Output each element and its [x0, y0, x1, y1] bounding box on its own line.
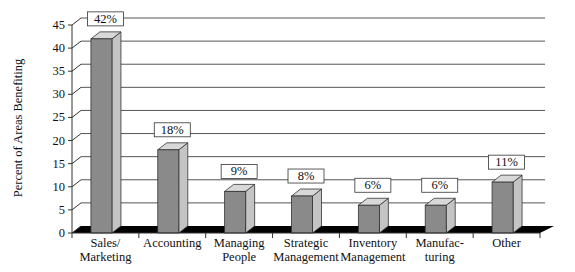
y-tick-label: 10 — [53, 180, 66, 194]
data-label: 9% — [231, 164, 248, 178]
category-label: Accounting — [143, 236, 202, 250]
bar-front — [158, 150, 179, 233]
category-label: Strategic — [284, 236, 329, 250]
bar — [358, 198, 388, 233]
y-tick-label: 5 — [59, 203, 65, 217]
bar-front — [91, 39, 112, 233]
y-tick-label: 40 — [53, 41, 66, 55]
y-tick-label: 15 — [53, 157, 66, 171]
category-label: Managing — [214, 236, 265, 250]
bar-side — [112, 32, 121, 233]
bar — [158, 143, 188, 233]
data-label: 42% — [94, 12, 117, 26]
bar-front — [358, 205, 379, 233]
bar-side — [246, 184, 255, 233]
data-labels: 42%18%9%8%6%6%11% — [87, 12, 524, 192]
y-tick-diagonal — [72, 180, 81, 187]
y-tick-label: 45 — [53, 18, 66, 32]
bar-front — [225, 191, 246, 233]
data-label: 8% — [298, 169, 315, 183]
bar — [425, 198, 455, 233]
bar-side — [513, 175, 522, 233]
y-tick-diagonal — [72, 134, 81, 141]
bar-side — [313, 189, 322, 233]
bar — [492, 175, 522, 233]
category-label: People — [222, 250, 256, 264]
y-tick-diagonal — [72, 87, 81, 94]
y-tick-diagonal — [72, 157, 81, 164]
y-tick-diagonal — [72, 18, 81, 25]
category-label: Manufac- — [415, 236, 464, 250]
category-label: Management — [340, 250, 406, 264]
y-tick-diagonal — [72, 203, 81, 210]
data-label: 6% — [365, 178, 382, 192]
y-tick-diagonal — [72, 110, 81, 117]
bar-front — [292, 196, 313, 233]
y-tick-label: 35 — [53, 64, 66, 78]
bar-chart: 051015202530354045 Sales/MarketingAccoun… — [0, 0, 575, 272]
y-tick-label: 20 — [53, 134, 66, 148]
category-label: Marketing — [79, 250, 132, 264]
category-label: Inventory — [349, 236, 398, 250]
category-label: Sales/ — [90, 236, 120, 250]
category-label: turing — [425, 250, 456, 264]
bar-front — [425, 205, 446, 233]
bar — [292, 189, 322, 233]
data-label: 11% — [495, 155, 517, 169]
y-tick-label: 0 — [59, 226, 65, 240]
y-tick-diagonal — [72, 64, 81, 71]
data-label: 6% — [431, 178, 448, 192]
category-label: Other — [492, 236, 521, 250]
bar-side — [179, 143, 188, 233]
category-label: Management — [273, 250, 339, 264]
y-tick-label: 25 — [53, 110, 66, 124]
y-tick-diagonal — [72, 41, 81, 48]
x-axis: Sales/MarketingAccountingManagingPeopleS… — [72, 233, 540, 264]
bar-front — [492, 182, 513, 233]
data-label: 18% — [161, 123, 184, 137]
y-tick-label: 30 — [53, 87, 66, 101]
bar — [225, 184, 255, 233]
bar — [91, 32, 121, 233]
y-axis: 051015202530354045 — [53, 18, 82, 240]
